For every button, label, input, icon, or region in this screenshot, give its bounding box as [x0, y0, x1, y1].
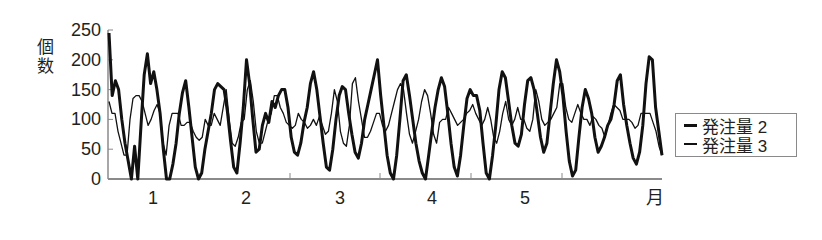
- y-tick-label: 200: [71, 50, 101, 70]
- y-tick-label: 250: [71, 20, 101, 40]
- y-axis-title-line: 数: [36, 57, 54, 76]
- legend-label: 発注量 3: [702, 132, 767, 157]
- y-tick-label: 0: [91, 169, 101, 189]
- y-axis-ticks: 050100150200250: [71, 20, 113, 189]
- legend: 発注量 2 発注量 3: [675, 113, 797, 157]
- x-tick-label: 2: [241, 188, 251, 208]
- y-tick-label: 50: [81, 139, 101, 159]
- thin-line-swatch-icon: [684, 143, 697, 145]
- y-axis-title-line: 個: [36, 38, 54, 57]
- x-axis: 12345月: [108, 173, 664, 208]
- series-line-order-2: [109, 33, 662, 179]
- y-tick-label: 100: [71, 109, 101, 129]
- y-tick-label: 150: [71, 80, 101, 100]
- x-tick-label: 3: [335, 188, 345, 208]
- x-tick-label: 5: [520, 188, 530, 208]
- plot-area: [109, 33, 662, 179]
- y-axis-title: 個 数: [36, 38, 54, 76]
- x-axis-unit-label: 月: [646, 187, 664, 208]
- x-tick-label: 4: [427, 188, 437, 208]
- thick-line-swatch-icon: [684, 124, 697, 127]
- x-tick-label: 1: [148, 188, 158, 208]
- legend-item-series-3: 発注量 3: [684, 134, 767, 154]
